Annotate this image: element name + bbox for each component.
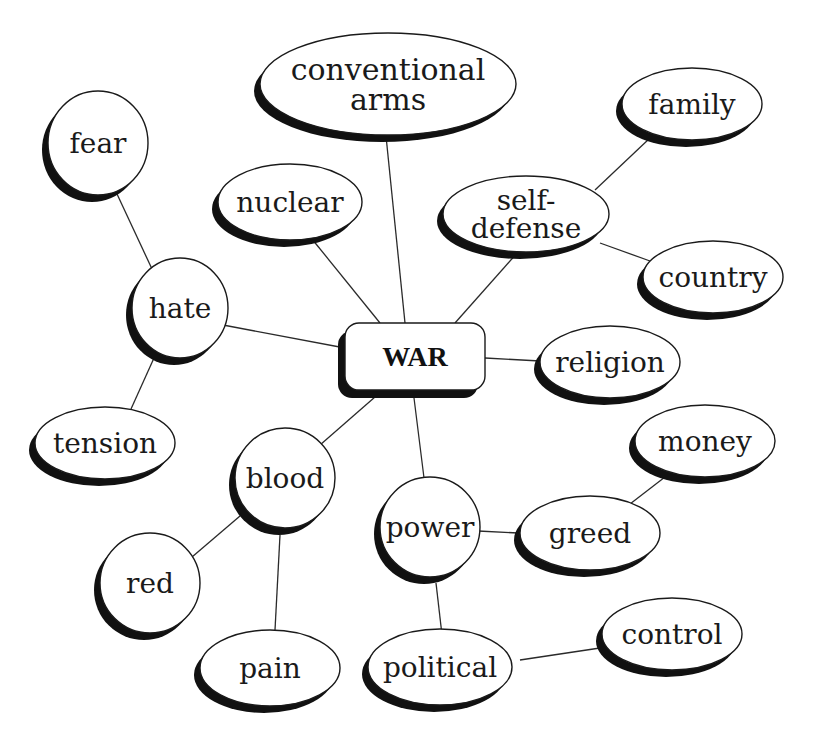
node-label: fear xyxy=(69,127,127,160)
node-label: hate xyxy=(149,292,212,325)
node-label: red xyxy=(126,567,174,600)
node-label: money xyxy=(658,425,752,458)
war-concept-map: conventionalarmsfamilyfearnuclearself-de… xyxy=(0,0,814,751)
node-label: religion xyxy=(555,346,665,379)
node-label: control xyxy=(621,618,722,651)
node-label: nuclear xyxy=(236,186,344,219)
node-label: power xyxy=(386,511,475,544)
node-label: greed xyxy=(549,517,631,550)
center-node[interactable]: WAR xyxy=(338,323,485,398)
node-label: family xyxy=(648,88,736,121)
node-label: pain xyxy=(239,652,301,685)
center-node-label: WAR xyxy=(382,341,448,372)
node-label: tension xyxy=(53,427,157,460)
node-label: political xyxy=(383,651,497,684)
node-label: arms xyxy=(350,82,426,117)
node-label: defense xyxy=(471,212,581,245)
node-label: blood xyxy=(246,462,325,495)
node-label: country xyxy=(658,261,767,294)
